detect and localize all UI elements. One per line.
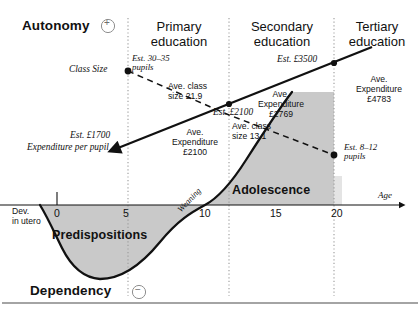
annotation-expenditure-tertiary: Ave. Expenditure £4783 [344, 75, 414, 104]
axis-tick-0: 0 [54, 208, 60, 219]
annotation-class-size-start-line2: pupils [132, 63, 170, 72]
annotation-expenditure-tertiary-est: Est. £3500 [277, 55, 317, 65]
adolescence-region-sliver [334, 176, 342, 205]
phase-heading-tertiary-line2: education [337, 35, 417, 50]
class-size-point-end [331, 152, 338, 159]
expenditure-point-tertiary [331, 60, 337, 66]
phase-heading-primary: Primary education [135, 20, 223, 49]
annotation-class-size-primary-line2: size 21.9 [168, 92, 207, 102]
minus-sign: − [135, 285, 141, 296]
series-label-class-size: Class Size [69, 65, 107, 75]
cropped-caption-remnant [10, 0, 14, 9]
phase-heading-secondary-line2: education [232, 35, 332, 50]
annotation-expenditure-primary-line3: £2100 [164, 148, 226, 158]
diagram-canvas: Primary education Secondary education Te… [0, 0, 420, 310]
annotation-class-size-primary: Ave. class size 21.9 [168, 82, 207, 102]
phase-heading-tertiary-line1: Tertiary [337, 20, 417, 35]
phase-heading-tertiary: Tertiary education [337, 20, 417, 49]
phase-heading-secondary: Secondary education [232, 20, 332, 49]
annotation-expenditure-start: Est. £1700 [70, 131, 110, 141]
region-label-predispositions: Predispositions [52, 229, 147, 242]
annotation-class-size-end-line2: pupils [344, 152, 377, 161]
axis-tick-5: 5 [123, 208, 129, 219]
phase-heading-primary-line1: Primary [135, 20, 223, 35]
annotation-class-size-end: Est. 8–12 pupils [344, 143, 377, 162]
phase-heading-primary-line2: education [135, 35, 223, 50]
axis-label-dependency: Dependency [30, 284, 111, 298]
axis-tick-10: 10 [199, 208, 211, 219]
annotation-expenditure-secondary-line3: £2769 [247, 110, 315, 120]
axis-tick-20: 20 [331, 208, 343, 219]
plus-sign: + [104, 18, 110, 29]
origin-note-line2: in utero [12, 217, 41, 227]
annotation-expenditure-tertiary-line3: £4783 [344, 95, 414, 105]
annotation-class-size-secondary: Ave. class size 13.1 [232, 122, 271, 142]
annotation-class-size-start: Est. 30–35 pupils [132, 54, 170, 73]
axis-label-age: Age [378, 191, 392, 201]
axis-label-autonomy: Autonomy [22, 19, 90, 33]
region-label-adolescence: Adolescence [232, 184, 310, 197]
annotation-class-size-secondary-line2: size 13.1 [232, 132, 271, 142]
phase-heading-secondary-line1: Secondary [232, 20, 332, 35]
origin-note: Dev. in utero [12, 207, 41, 226]
series-label-expenditure: Expenditure per pupil [27, 143, 109, 153]
axis-tick-15: 15 [270, 208, 282, 219]
annotation-expenditure-primary: Ave. Expenditure £2100 [164, 128, 226, 157]
annotation-expenditure-secondary: Ave. Expenditure £2769 [247, 90, 315, 119]
